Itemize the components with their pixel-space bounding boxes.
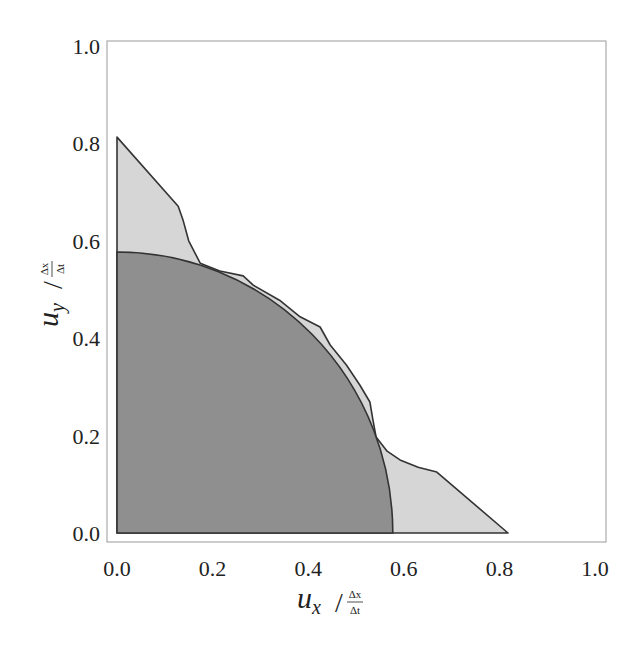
y-axis-ticks: 0.00.20.40.60.81.0 xyxy=(73,34,101,546)
y-tick-label: 0.6 xyxy=(73,229,101,254)
x-tick-label: 0.0 xyxy=(103,556,131,581)
svg-text:uy: uy xyxy=(31,303,69,327)
x-axis-label: ux / Δx Δt xyxy=(297,581,363,618)
svg-text:Δx: Δx xyxy=(38,262,50,275)
y-tick-label: 0.0 xyxy=(73,521,101,546)
x-tick-label: 0.8 xyxy=(486,556,514,581)
y-tick-label: 0.8 xyxy=(73,131,101,156)
y-axis-label: uy / Δx Δt xyxy=(31,261,69,327)
svg-text:/: / xyxy=(335,587,343,618)
svg-text:Δx: Δx xyxy=(349,588,362,600)
plot-area xyxy=(117,137,508,533)
x-tick-label: 1.0 xyxy=(581,556,609,581)
x-tick-label: 0.6 xyxy=(390,556,418,581)
stability-region-chart: 0.00.20.40.60.81.0 0.00.20.40.60.81.0 ux… xyxy=(0,0,640,645)
y-tick-label: 0.4 xyxy=(73,326,101,351)
x-axis-ticks: 0.00.20.40.60.81.0 xyxy=(103,556,609,581)
y-tick-label: 1.0 xyxy=(73,34,101,59)
y-tick-label: 0.2 xyxy=(73,424,101,449)
svg-text:ux: ux xyxy=(297,581,321,618)
quarter-circle-region xyxy=(117,252,393,533)
svg-text:Δt: Δt xyxy=(350,604,360,616)
x-tick-label: 0.2 xyxy=(199,556,227,581)
svg-text:Δt: Δt xyxy=(54,264,66,274)
x-tick-label: 0.4 xyxy=(294,556,322,581)
svg-text:/: / xyxy=(37,281,68,289)
